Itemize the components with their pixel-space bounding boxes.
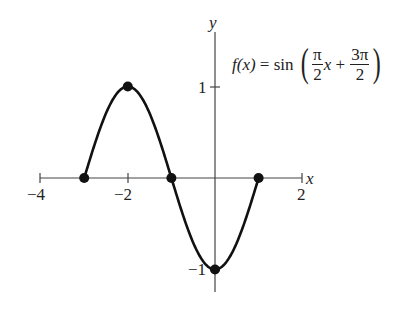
left-paren: ( [300, 43, 308, 83]
frac1-denominator: 2 [313, 65, 322, 83]
x-tick-label--4: −4 [27, 185, 46, 204]
x-tick-label-2: 2 [297, 185, 306, 204]
y-axis-label: y [207, 13, 217, 32]
equation-lhs: f(x) [232, 55, 256, 75]
data-point [123, 82, 133, 92]
y-tick-label-1: 1 [198, 78, 207, 97]
data-point [210, 265, 220, 275]
equation-equals-sin: = sin [256, 55, 298, 75]
frac2-numerator: 3π [350, 46, 369, 65]
right-paren: ) [373, 43, 381, 83]
frac1-numerator: π [312, 46, 323, 65]
equation-variable: x [324, 55, 332, 75]
data-point [79, 173, 89, 183]
data-point [254, 173, 264, 183]
equation-plus: + [331, 55, 349, 75]
x-axis-label: x [305, 169, 314, 188]
y-tick-label--1: −1 [188, 260, 206, 279]
fraction-pi-over-2: π 2 [312, 46, 323, 83]
function-equation: f(x) = sin ( π 2 x + 3π 2 ) [232, 46, 384, 83]
x-tick-label--2: −2 [114, 185, 132, 204]
frac2-denominator: 2 [356, 65, 365, 83]
data-point [166, 173, 176, 183]
fraction-3pi-over-2: 3π 2 [350, 46, 369, 83]
